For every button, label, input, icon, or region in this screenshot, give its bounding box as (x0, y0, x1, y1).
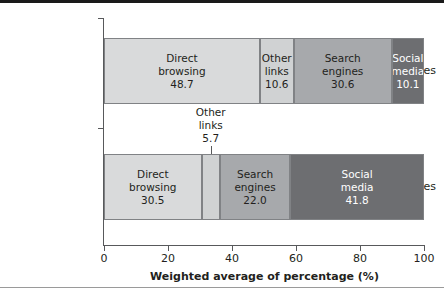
bar-segment-label: 30.5 (141, 194, 164, 207)
bar-row: Directbrowsing48.7Otherlinks10.6Searchen… (104, 38, 424, 104)
bar-segment (202, 154, 220, 220)
callout-other-links: Otherlinks5.7 (171, 106, 251, 145)
y-axis-tick (98, 128, 104, 129)
x-axis-tick-label: 60 (276, 252, 316, 265)
x-axis-tick (104, 246, 105, 251)
stacked-bar-chart: Top news sitesFake news sites 0204060801… (0, 0, 444, 294)
bar-segment-label: Search (237, 168, 273, 181)
bar-segment-label: engines (234, 181, 275, 194)
x-axis-tick (296, 246, 297, 251)
bar-segment: Directbrowsing48.7 (104, 38, 260, 104)
bar-segment-label: 10.6 (265, 78, 288, 91)
x-axis-tick (232, 246, 233, 251)
bar-segment-label: media (392, 65, 424, 78)
bar-segment-label: 22.0 (243, 194, 266, 207)
x-axis-tick-label: 80 (340, 252, 380, 265)
x-axis-title: Weighted average of percentage (%) (104, 270, 425, 283)
callout-label: links (171, 119, 251, 132)
bar-segment: Searchengines30.6 (294, 38, 392, 104)
callout-label: Other (171, 106, 251, 119)
bar-segment-label: Search (325, 52, 361, 65)
bar-segment-label: media (341, 181, 374, 194)
bar-segment: Directbrowsing30.5 (104, 154, 202, 220)
bar-segment-label: browsing (158, 65, 205, 78)
bar-segment-label: Direct (166, 52, 197, 65)
bar-segment-label: links (265, 65, 289, 78)
bar-segment-label: 48.7 (170, 78, 193, 91)
bar-segment: Socialmedia10.1 (392, 38, 424, 104)
y-axis-tick (98, 18, 104, 19)
bar-segment-label: 41.8 (345, 194, 368, 207)
x-axis-tick-label: 20 (148, 252, 188, 265)
x-axis-tick (360, 246, 361, 251)
bar-segment: Socialmedia41.8 (290, 154, 424, 220)
bar-segment: Searchengines22.0 (220, 154, 290, 220)
bar-segment-label: Direct (137, 168, 168, 181)
bar-segment-label: 30.6 (331, 78, 354, 91)
x-axis-tick (168, 246, 169, 251)
bar-segment-label: 10.1 (396, 78, 419, 91)
bar-segment-label: browsing (129, 181, 176, 194)
bar-segment-label: Other (262, 52, 292, 65)
bar-segment: Otherlinks10.6 (260, 38, 294, 104)
x-axis-tick-label: 40 (212, 252, 252, 265)
x-axis-tick (424, 246, 425, 251)
callout-leader-line (211, 146, 212, 154)
x-axis-tick-label: 0 (84, 252, 124, 265)
callout-label: 5.7 (171, 132, 251, 145)
bar-segment-label: Social (342, 168, 373, 181)
x-axis-spine (104, 245, 425, 246)
x-axis-tick-label: 100 (404, 252, 444, 265)
bar-row: Directbrowsing30.5Searchengines22.0Socia… (104, 154, 424, 220)
bar-segment-label: engines (322, 65, 363, 78)
bar-segment-label: Social (392, 52, 423, 65)
